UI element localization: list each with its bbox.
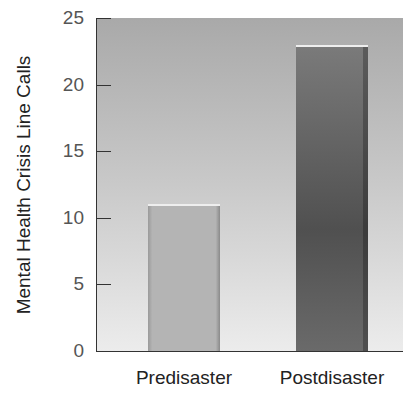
y-tick-label: 5 bbox=[40, 274, 84, 294]
y-tick-25 bbox=[97, 18, 111, 19]
y-tick-10 bbox=[97, 218, 111, 219]
y-tick-label: 0 bbox=[40, 341, 84, 361]
y-axis-line bbox=[96, 18, 97, 352]
y-tick-label: 15 bbox=[40, 141, 84, 161]
x-category-label: Predisaster bbox=[114, 367, 254, 389]
y-tick-15 bbox=[97, 151, 111, 152]
y-axis-title: Mental Health Crisis Line Calls bbox=[13, 56, 35, 315]
y-tick-20 bbox=[97, 85, 111, 86]
y-tick-5 bbox=[97, 284, 111, 285]
bar-postdisaster bbox=[296, 45, 368, 351]
y-tick-label: 20 bbox=[40, 75, 84, 95]
y-tick-label: 25 bbox=[40, 8, 84, 28]
bar-predisaster bbox=[148, 204, 220, 351]
y-tick-label: 10 bbox=[40, 208, 84, 228]
x-axis-line bbox=[96, 351, 403, 352]
x-category-label: Postdisaster bbox=[262, 367, 402, 389]
